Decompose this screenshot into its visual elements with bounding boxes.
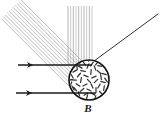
hatch-mark <box>81 78 82 83</box>
ray-diagram-svg: B <box>0 0 164 116</box>
hatch-mark <box>101 75 102 80</box>
figure-container: B <box>0 0 164 116</box>
hatch-mark <box>104 86 105 91</box>
hatch-mark <box>81 71 86 72</box>
field-label-B: B <box>83 102 91 114</box>
